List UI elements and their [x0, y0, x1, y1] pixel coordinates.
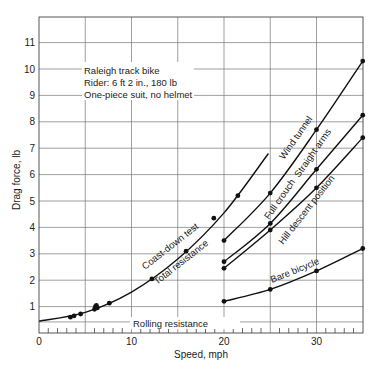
- data-point: [268, 191, 273, 196]
- data-point: [360, 113, 365, 118]
- svg-text:2: 2: [29, 275, 35, 286]
- data-point: [222, 266, 227, 271]
- series-curve: [39, 153, 268, 321]
- data-point: [95, 306, 100, 311]
- x-axis-tick-labels: 0102030: [36, 336, 322, 347]
- svg-text:8: 8: [29, 116, 35, 127]
- svg-text:7: 7: [29, 143, 35, 154]
- data-point: [72, 313, 77, 318]
- series-curve: [224, 138, 363, 269]
- label-rolling-resistance: Rolling resistance: [133, 318, 208, 329]
- data-point: [107, 301, 112, 306]
- svg-text:6: 6: [29, 169, 35, 180]
- data-point: [314, 167, 319, 172]
- data-point: [360, 59, 365, 64]
- data-point: [360, 246, 365, 251]
- annotation-box: Raleigh track bike Rider: 6 ft 2 in., 18…: [82, 62, 194, 100]
- data-point: [268, 221, 273, 226]
- svg-text:1: 1: [29, 301, 35, 312]
- data-point: [360, 135, 365, 140]
- series-curve: [224, 61, 363, 241]
- annotation-line-1: Raleigh track bike: [84, 65, 160, 76]
- data-point: [268, 287, 273, 292]
- svg-text:11: 11: [25, 37, 36, 48]
- svg-text:5: 5: [29, 196, 35, 207]
- svg-text:20: 20: [218, 336, 230, 347]
- svg-text:3: 3: [29, 248, 35, 259]
- data-point: [314, 269, 319, 274]
- data-point: [268, 228, 273, 233]
- svg-text:10: 10: [126, 336, 138, 347]
- data-point: [314, 127, 319, 132]
- data-point: [78, 312, 83, 317]
- svg-text:10: 10: [24, 64, 36, 75]
- svg-text:9: 9: [29, 90, 35, 101]
- data-point: [222, 238, 227, 243]
- y-axis-tick-labels: 1234567891011: [24, 37, 36, 312]
- x-axis-label: Speed, mph: [174, 349, 228, 360]
- data-point: [211, 216, 216, 221]
- svg-text:0: 0: [36, 336, 42, 347]
- svg-text:30: 30: [311, 336, 323, 347]
- y-axis-label: Drag force, lb: [11, 150, 22, 210]
- svg-text:4: 4: [29, 222, 35, 233]
- annotation-line-2: Rider: 6 ft 2 in., 180 lb: [84, 77, 177, 88]
- data-point: [222, 299, 227, 304]
- data-point: [222, 259, 227, 264]
- label-total-resistance: Total resistance: [151, 237, 210, 286]
- annotation-line-3: One-piece suit, no helmet: [84, 89, 193, 100]
- drag-force-chart: 1234567891011 0102030 Drag force, lb Spe…: [0, 0, 383, 369]
- data-point: [235, 193, 240, 198]
